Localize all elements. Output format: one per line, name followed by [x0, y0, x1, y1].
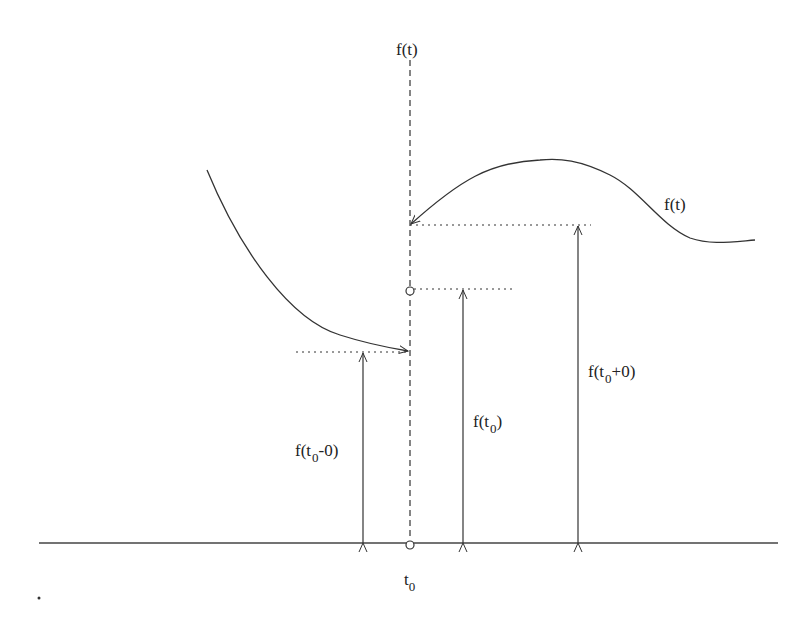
t0-point	[406, 541, 414, 549]
right-curve	[411, 159, 755, 242]
stray-dot	[38, 597, 41, 600]
function-value-point	[406, 287, 414, 295]
value-label: f(t0)	[473, 412, 502, 436]
t0-label: t0	[404, 570, 415, 594]
left-curve	[207, 170, 408, 351]
curve-label: f(t)	[664, 195, 686, 214]
discontinuity-diagram: f(t) f(t) t0 f(t0-0) f(t0) f(t0+0)	[0, 0, 808, 632]
right-limit-label: f(t0+0)	[588, 362, 635, 386]
axis-top-label: f(t)	[396, 40, 418, 59]
left-limit-label: f(t0-0)	[295, 441, 338, 465]
